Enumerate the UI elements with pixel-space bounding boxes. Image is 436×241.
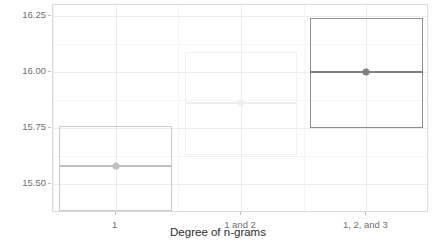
plot-panel bbox=[52, 4, 428, 212]
y-tick-label-text: 16.25 bbox=[20, 10, 46, 20]
median-point bbox=[112, 163, 119, 170]
y-tick-label-text: 15.50 bbox=[20, 178, 46, 188]
y-tick-label-text: 16.00 bbox=[20, 66, 46, 76]
x-axis-title: Degree of n-grams bbox=[0, 226, 436, 238]
y-tick-label-text: 15.75 bbox=[20, 122, 46, 132]
gridline-x-minor bbox=[178, 5, 179, 211]
gridline-x-minor bbox=[53, 5, 54, 211]
x-tick-mark bbox=[240, 212, 241, 215]
y-tick-mark bbox=[48, 183, 51, 184]
boxplot-chart: RMSE 15.5015.7516.0016.25 11 and 21, 2, … bbox=[0, 0, 436, 241]
gridline-x-minor bbox=[304, 5, 305, 211]
y-tick-mark bbox=[48, 71, 51, 72]
y-tick-mark bbox=[48, 15, 51, 16]
gridline-y-major bbox=[53, 16, 427, 17]
y-tick-mark bbox=[48, 127, 51, 128]
median-point bbox=[238, 100, 245, 107]
median-point bbox=[363, 69, 370, 76]
x-tick-mark bbox=[365, 212, 366, 215]
x-tick-mark bbox=[115, 212, 116, 215]
